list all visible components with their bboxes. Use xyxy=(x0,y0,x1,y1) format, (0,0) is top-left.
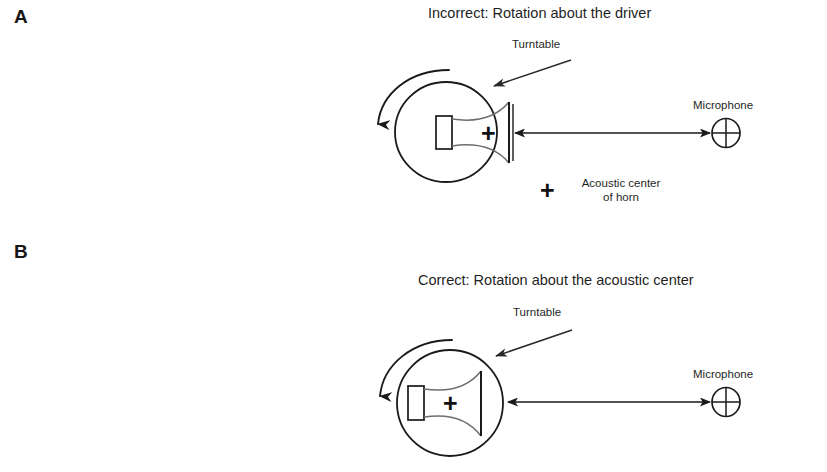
acoustic-center-marker-a: + xyxy=(481,121,496,146)
acoustic-center-legend-marker-a: + xyxy=(540,178,555,203)
turntable-callout-arrow-a xyxy=(494,60,571,86)
panel-a-graphics xyxy=(378,60,740,182)
panel-title-b: Correct: Rotation about the acoustic cen… xyxy=(418,272,694,289)
driver-box-b xyxy=(408,386,424,420)
horn-upper-wall-b xyxy=(424,371,481,390)
panel-letter-a: A xyxy=(14,6,28,28)
acoustic-center-legend-line2: of horn xyxy=(566,190,676,204)
panel-b-graphics xyxy=(380,330,740,456)
acoustic-center-marker-b: + xyxy=(443,391,458,416)
panel-title-a: Incorrect: Rotation about the driver xyxy=(428,5,651,22)
acoustic-center-legend-line1: Acoustic center xyxy=(566,176,676,190)
turntable-callout-arrow-b xyxy=(496,330,572,356)
microphone-label-a: Microphone xyxy=(693,99,753,112)
driver-box-a xyxy=(436,116,452,149)
microphone-label-b: Microphone xyxy=(693,368,753,381)
panel-letter-b: B xyxy=(14,241,28,263)
turntable-label-a: Turntable xyxy=(512,38,560,51)
horn-lower-wall-b xyxy=(424,416,481,436)
horn-upper-wall-a xyxy=(452,102,509,120)
turntable-label-b: Turntable xyxy=(513,306,561,319)
horn-lower-wall-a xyxy=(452,145,509,163)
figure-canvas: A Incorrect: Rotation about the driver T… xyxy=(0,0,827,472)
diagram-vector-layer xyxy=(0,0,827,472)
